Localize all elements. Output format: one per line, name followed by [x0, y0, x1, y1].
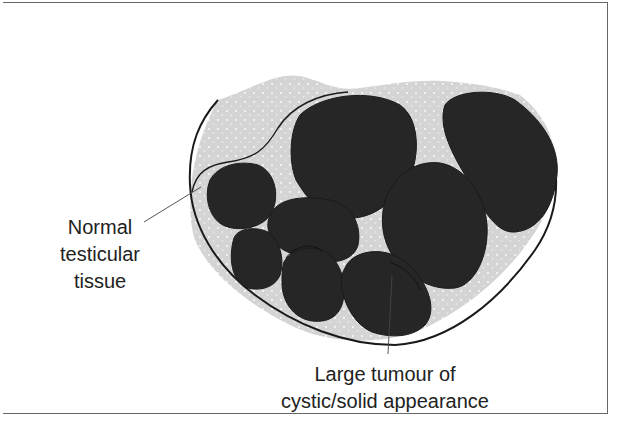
nodule-small-top-left	[207, 163, 275, 229]
label-normal-line-2: testicular	[40, 241, 160, 268]
nodule-small-lower-left	[231, 229, 282, 289]
label-large-tumour: Large tumour of cystic/solid appearance	[250, 361, 520, 415]
label-tumour-line-1: Large tumour of	[250, 361, 520, 388]
label-tumour-line-2: cystic/solid appearance	[250, 388, 520, 415]
label-normal-line-3: tissue	[40, 268, 160, 295]
label-normal-testicular-tissue: Normal testicular tissue	[40, 214, 160, 295]
label-normal-line-1: Normal	[40, 214, 160, 241]
